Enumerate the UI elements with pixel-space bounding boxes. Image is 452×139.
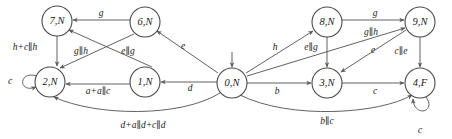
edge-label-3-to-4: c [373, 86, 378, 96]
state-label-6n: 6,N [138, 16, 154, 27]
edge-0-to-6 [157, 31, 218, 73]
edge-label-0-to-8: h [273, 42, 278, 52]
edge-label-9-to-4: c∥e [395, 46, 408, 56]
state-node-9n[interactable]: 9,N [405, 7, 435, 37]
edge-0-to-8 [246, 31, 313, 73]
state-label-3n: 3,N [319, 77, 336, 88]
edge-label-1-to-7: e∥g [121, 46, 135, 56]
state-node-7n[interactable]: 7,N [42, 6, 72, 36]
state-node-0n[interactable]: 0,N [217, 68, 247, 98]
edge-label-2-self: c [8, 76, 13, 86]
state-label-9n: 9,N [413, 16, 429, 27]
edge-label-0-to-4: b∥c [320, 116, 334, 126]
edge-label-4-self: c [418, 125, 423, 135]
state-label-1n: 1,N [138, 76, 154, 87]
state-node-8n[interactable]: 8,N [312, 7, 342, 37]
state-node-1n[interactable]: 1,N [130, 67, 160, 97]
state-label-7n: 7,N [50, 15, 66, 26]
state-label-4f: 4,F [413, 77, 428, 88]
edge-label-0-to-2: d+a∥d+c∥d [121, 120, 166, 130]
edge-label-6-to-2: g∥h [74, 46, 88, 56]
edge-label-0-to-6: e [181, 41, 185, 51]
edge-label-6-to-7: g [99, 8, 104, 18]
edge-label-3-to-8: e∥g [304, 42, 318, 52]
state-label-8n: 8,N [320, 16, 336, 27]
state-node-2n[interactable]: 2,N [35, 67, 65, 97]
state-node-6n[interactable]: 6,N [130, 7, 160, 37]
edge-label-9-to-3: g∥h [364, 27, 378, 37]
edge-label-8-to-9: g [373, 8, 378, 18]
edge-label-7-to-2: h+c∥h [13, 42, 38, 52]
edge-4-self-loop [413, 97, 429, 111]
state-machine-diagram: 7,N 6,N 8,N 9,N 2,N 1,N [0, 0, 452, 139]
edge-label-0-to-9: e [371, 45, 375, 55]
edge-0-to-2 [54, 93, 220, 112]
state-node-3n[interactable]: 3,N [312, 68, 342, 98]
edge-label-0-to-3: b [275, 86, 280, 96]
state-label-2n: 2,N [43, 76, 59, 87]
state-node-4f[interactable]: 4,F [405, 68, 435, 98]
fsm-canvas: 7,N 6,N 8,N 9,N 2,N 1,N [0, 0, 452, 139]
edge-label-1-to-2: a+a∥c [86, 86, 111, 96]
state-label-0n: 0,N [225, 77, 241, 88]
edge-label-0-to-1: d [188, 83, 193, 93]
